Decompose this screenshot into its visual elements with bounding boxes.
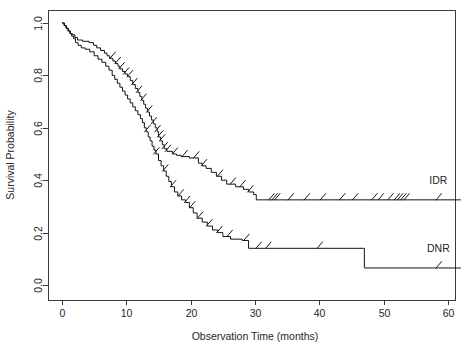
censor-tick [371, 193, 377, 200]
x-tick-label: 30 [250, 307, 262, 319]
censor-tick [304, 193, 310, 200]
censor-tick [288, 193, 294, 200]
censor-tick [197, 212, 203, 219]
x-tick-label: 60 [443, 307, 455, 319]
censor-tick [265, 242, 271, 249]
censor-tick [388, 193, 394, 200]
y-axis-ticks: 0.00.20.40.60.81.0 [32, 16, 48, 293]
x-axis-ticks: 0102030405060 [60, 300, 455, 319]
censor-tick [182, 150, 188, 157]
censor-tick [230, 178, 236, 185]
censor-tick [243, 234, 249, 241]
censor-tick [240, 180, 246, 187]
censor-tick [397, 193, 403, 200]
y-tick-label: 1.0 [32, 16, 44, 31]
x-tick-label: 40 [314, 307, 326, 319]
censor-tick [320, 193, 326, 200]
survival-curve-idr [62, 23, 461, 200]
censor-tick [352, 193, 358, 200]
y-axis-title: Survival Probability [4, 110, 16, 200]
x-axis-title: Observation Time (months) [192, 330, 319, 342]
series-label-dnr: DNR [427, 242, 450, 254]
survival-curves [62, 23, 461, 268]
x-tick-label: 0 [60, 307, 66, 319]
plot-frame [49, 11, 456, 301]
y-tick-label: 0.0 [32, 278, 44, 293]
censor-tick [144, 125, 150, 132]
censor-tick [256, 242, 262, 249]
censor-tick [178, 189, 184, 196]
censor-tick [136, 86, 142, 93]
y-tick-label: 0.6 [32, 121, 44, 136]
censor-tick [378, 193, 384, 200]
censor-tick [217, 170, 223, 177]
censor-tick [227, 230, 233, 237]
series-annotations: IDRDNR [427, 174, 450, 254]
survival-curve-dnr [62, 23, 461, 268]
x-tick-label: 20 [186, 307, 198, 319]
censor-tick [193, 151, 199, 158]
y-tick-label: 0.4 [32, 173, 44, 188]
censor-tick [404, 193, 410, 200]
plot-canvas: 0102030405060 0.00.20.40.60.81.0 IDRDNR … [0, 0, 465, 351]
series-label-idr: IDR [429, 174, 448, 186]
censor-tick [436, 193, 442, 200]
censor-tick [400, 193, 406, 200]
censor-tick [394, 193, 400, 200]
censor-tick [189, 201, 195, 208]
censor-tick [110, 52, 116, 59]
censor-tick [268, 193, 274, 200]
x-tick-label: 50 [379, 307, 391, 319]
censor-tick [339, 193, 345, 200]
censor-tick [317, 242, 323, 249]
y-tick-label: 0.2 [32, 226, 44, 241]
x-tick-label: 10 [121, 307, 133, 319]
censor-tick [436, 261, 442, 268]
y-tick-label: 0.8 [32, 68, 44, 83]
survival-plot-figure: 0102030405060 0.00.20.40.60.81.0 IDRDNR … [0, 0, 465, 351]
